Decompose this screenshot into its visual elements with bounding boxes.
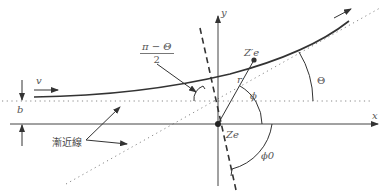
x-axis-label: x (372, 111, 378, 121)
asymptote-pointer-2 (86, 140, 127, 144)
half-angle-arc (194, 86, 203, 101)
velocity-label: v (36, 76, 42, 86)
asymptote-label: 漸近線 (52, 134, 82, 149)
trajectory-curve (34, 21, 349, 97)
theta-arc (299, 52, 313, 101)
outgoing-arrow (334, 9, 351, 18)
half-angle-denominator: 2 (140, 54, 174, 65)
nucleus-point (215, 121, 221, 127)
phi-label: ϕ (250, 91, 257, 101)
half-angle-tick (203, 86, 205, 89)
outgoing-asymptote (66, 8, 380, 184)
half-angle-pointer (157, 64, 196, 92)
phi0-label: ϕ0 (261, 151, 274, 161)
particle-point (251, 57, 256, 62)
half-angle-numerator: π − Θ (140, 42, 174, 54)
nucleus-label: Ze (226, 130, 239, 140)
impact-parameter-label: b (17, 105, 23, 115)
half-angle-label: π − Θ 2 (140, 42, 174, 65)
scattering-diagram (0, 0, 384, 196)
y-axis-label: y (221, 8, 227, 18)
radius-label: r (237, 75, 242, 85)
theta-label: Θ (317, 76, 325, 86)
particle-label: Z′e (244, 48, 259, 58)
